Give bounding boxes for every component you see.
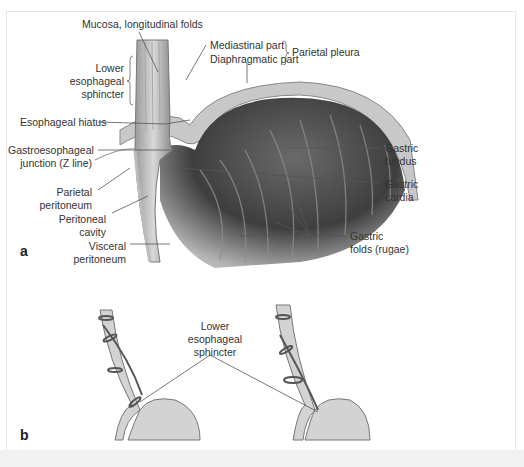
panel-letter-a: a [20, 243, 28, 259]
label-rugae-2: folds (rugae) [350, 243, 409, 255]
label-les-b-3: sphincter [180, 346, 250, 358]
label-peritoneal-cavity-1: Peritoneal [40, 213, 106, 225]
label-les-a-1: Lower [60, 62, 124, 74]
label-visceral-peritoneum-2: peritoneum [60, 253, 126, 265]
label-cardia-2: cardia [385, 191, 414, 203]
label-diaphragmatic-part: Diaphragmatic part [210, 53, 299, 65]
label-parietal-peritoneum-1: Parietal [30, 186, 92, 198]
label-gej-2: junction (Z line) [8, 157, 92, 169]
label-mucosa: Mucosa, longitudinal folds [82, 18, 203, 30]
label-fundus-1: Gastric [385, 142, 418, 154]
label-parietal-peritoneum-2: peritoneum [30, 199, 92, 211]
label-rugae-1: Gastric [350, 230, 383, 242]
label-les-a-2: esophageal [60, 75, 124, 87]
label-les-b-1: Lower [180, 320, 250, 332]
label-gej-1: Gastroesophageal [8, 144, 92, 156]
label-mediastinal-part: Mediastinal part [210, 39, 284, 51]
panel-b-right-art [276, 305, 370, 440]
label-esophageal-hiatus: Esophageal hiatus [20, 116, 106, 128]
label-visceral-peritoneum-1: Visceral [60, 240, 126, 252]
label-cardia-1: Gastric [385, 178, 418, 190]
label-fundus-2: fundus [385, 155, 417, 167]
panel-letter-b: b [20, 427, 29, 443]
label-parietal-pleura: Parietal pleura [292, 46, 360, 58]
label-les-a-3: sphincter [60, 88, 124, 100]
label-les-b-2: esophageal [180, 333, 250, 345]
label-peritoneal-cavity-2: cavity [40, 226, 106, 238]
